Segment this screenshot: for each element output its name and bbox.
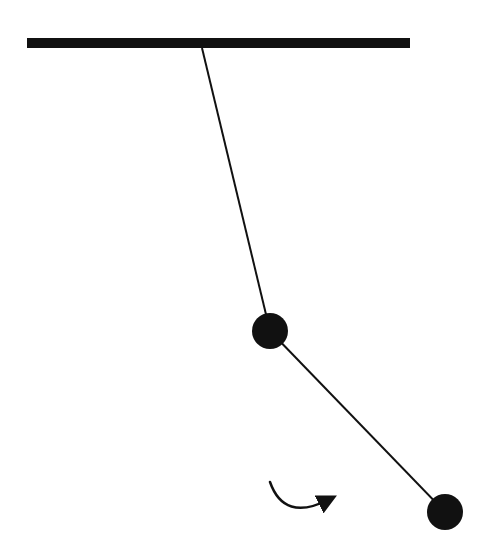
background xyxy=(0,0,492,551)
upper-bob xyxy=(252,313,288,349)
lower-bob xyxy=(427,494,463,530)
double-pendulum-diagram xyxy=(0,0,492,551)
